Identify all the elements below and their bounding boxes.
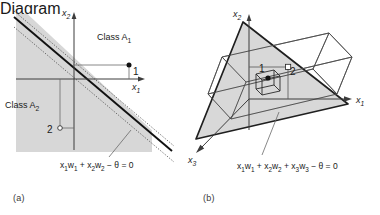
a-point1-marker xyxy=(127,63,132,68)
panel-b-point1-label: 1 xyxy=(259,63,265,74)
panel-a-point2-label: 2 xyxy=(47,124,53,135)
panel-b-x2-axis-label: x2 xyxy=(233,9,241,21)
panel-b-x3-axis-label: x3 xyxy=(188,155,196,167)
panel-a-equation-label: x1w1 + x2w2 − θ = 0 xyxy=(60,160,134,172)
b-x1-axis-arrowhead xyxy=(344,96,352,101)
panel-a-x1-axis-label: x1 xyxy=(132,82,140,94)
panel-a-caption: (a) xyxy=(13,193,25,203)
figure-graphics xyxy=(0,0,380,215)
panel-b-caption: (b) xyxy=(203,193,215,203)
panel-b-graphics xyxy=(196,14,352,155)
panel-b-point2-label: 2 xyxy=(290,66,296,77)
panel-a-class-a1-label: Class A1 xyxy=(97,32,131,44)
panel-a-point1-label: 1 xyxy=(133,66,139,77)
b-x2-axis-arrowhead xyxy=(247,14,252,21)
decision-plane-triangle xyxy=(196,22,348,139)
a-point2-marker xyxy=(58,126,63,131)
panel-a-x2-axis-label: x2 xyxy=(62,8,70,20)
panel-b-equation-label: x1w1 + x2w2 + x3w3 − θ = 0 xyxy=(237,161,338,173)
panel-a-class-a2-label: Class A2 xyxy=(5,100,39,112)
figure-container: x2 x1 Class A1 Class A2 1 2 x1w1 + x2w2 … xyxy=(0,0,380,215)
panel-a-graphics xyxy=(10,2,200,175)
b-point1-marker xyxy=(265,75,270,80)
panel-b-x1-axis-label: x1 xyxy=(356,95,364,107)
